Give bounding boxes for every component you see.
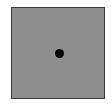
black-dot-icon [55,49,64,58]
canvas [0,0,112,108]
